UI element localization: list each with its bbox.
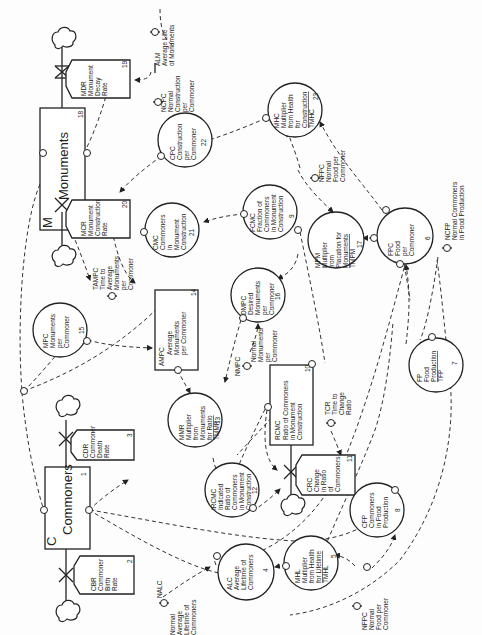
- const-nfpc-top: NFPC Normal Food per Commoner: [310, 149, 346, 182]
- svg-text:1: 1: [80, 472, 87, 476]
- svg-text:2: 2: [126, 559, 133, 563]
- const-tcr: TCR Time to Change Ratio: [324, 390, 352, 426]
- aux-cmc: CMC Commoners in Monument Construction 2…: [141, 203, 200, 257]
- cloud-source-icon: [56, 600, 80, 621]
- svg-text:11: 11: [346, 455, 353, 462]
- svg-text:NCPC Normal Constr: NCPC Normal Construction per Commoner: [160, 74, 195, 112]
- aux-mhc: MHC Multiplier from Health for Construct…: [263, 83, 323, 137]
- svg-text:Normal Average Lif: Normal Average Lifetime of Commoners: [169, 599, 197, 635]
- cloud-source-icon: [281, 494, 305, 515]
- svg-text:23: 23: [312, 92, 319, 100]
- svg-text:TCR Time to Change: TCR Time to Change Ratio: [324, 390, 352, 415]
- aux-mhl: MHL Multiplier from Health for Lifetime …: [283, 536, 339, 590]
- rate-cbr: CBR Commoner Birth Rate 2: [56, 549, 134, 622]
- svg-text:NCFP Normal Commoners: NCFP Normal Commoners in Food Production: [444, 180, 465, 240]
- aux-cfp: CFP Commoners in Food Production 8: [350, 483, 404, 571]
- svg-text:AMPC: AMPC: [158, 347, 165, 366]
- svg-text:Commoners: Commoners: [60, 464, 75, 535]
- svg-text:16: 16: [274, 292, 281, 300]
- svg-text:18: 18: [77, 110, 84, 118]
- svg-text:9: 9: [288, 214, 295, 218]
- level-commoners: Commoners C 1: [41, 464, 93, 549]
- svg-text:20: 20: [121, 200, 128, 208]
- box-rcmc: RCMC Ratio of Commoners in Monument Cons…: [265, 361, 316, 446]
- aux-mmr: MMR Multiplier from Monuments for Ratio …: [168, 393, 222, 447]
- svg-text:15: 15: [78, 326, 85, 334]
- const-ncpc: NCPC Normal Construction per Commoner: [153, 74, 195, 112]
- cloud-sink-icon: [56, 395, 80, 416]
- const-nfpc-bottom: NFPC Normal Food per Commoner: [352, 597, 389, 630]
- svg-text:21: 21: [188, 228, 195, 236]
- aux-ircmc: IRCMC Indicated Ratio of Commoners in Mo…: [205, 463, 259, 517]
- svg-text:14: 14: [190, 288, 197, 296]
- svg-text:3: 3: [126, 433, 133, 437]
- svg-text:NFPC Normal Food p: NFPC Normal Food per Commoner: [361, 597, 389, 630]
- svg-text:6: 6: [424, 236, 431, 240]
- system-dynamics-diagram: Monuments M 18 MDR Monument Decay Rate 1…: [0, 0, 482, 635]
- svg-text:12: 12: [251, 486, 258, 494]
- svg-text:M: M: [40, 217, 55, 228]
- svg-text:Normal Monuments p: Normal Monuments per Commoner: [250, 326, 278, 362]
- svg-text:NFPC Normal Food p: NFPC Normal Food per Commoner: [318, 149, 346, 182]
- svg-text:TAMPC Time to Aver: TAMPC Time to Average Monuments per Comm…: [92, 254, 134, 290]
- aux-mpm: MPM Multiplier from Placation for Monume…: [308, 212, 364, 268]
- const-nalc: NALC Normal Average Lifetime of Commoner…: [156, 580, 197, 635]
- aux-fp: FP Food Production TFP 7: [409, 334, 463, 393]
- svg-text:NALC: NALC: [156, 580, 163, 598]
- svg-text:7: 7: [451, 361, 458, 365]
- svg-text:8: 8: [394, 508, 401, 512]
- svg-text:19: 19: [121, 60, 128, 68]
- svg-text:17: 17: [356, 240, 363, 248]
- box-ampc: AMPC Average Monuments per Commoner 14: [155, 288, 198, 373]
- aux-mpc: MPC Monuments per Commoner 15: [21, 303, 91, 395]
- diagram-canvas: Monuments M 18 MDR Monument Decay Rate 1…: [0, 0, 482, 635]
- svg-text:22: 22: [200, 138, 207, 146]
- cloud-source-icon: [52, 245, 76, 266]
- aux-cpc: CPC Construction per Commoner 22: [158, 113, 213, 167]
- const-alm: ALM Average Life of Monuments: [150, 24, 175, 73]
- svg-text:NMPC: NMPC: [234, 357, 241, 376]
- rate-mdr: MDR Monument Decay Rate 19: [52, 27, 130, 108]
- aux-fpc: FPC Food per Commoner 6: [371, 207, 434, 268]
- const-tampc: TAMPC Time to Average Monuments per Comm…: [92, 254, 134, 299]
- const-ncfp: NCFP Normal Commoners in Food Production: [442, 180, 465, 251]
- rate-crc: CRC Change in Ratio of Commoners 11: [281, 435, 355, 516]
- aux-dmpc: DMPC Desired Monuments per Commoner 16: [231, 268, 285, 322]
- cloud-sink-icon: [52, 27, 76, 48]
- svg-text:13: 13: [214, 416, 221, 424]
- svg-text:Monuments: Monuments: [56, 132, 71, 200]
- svg-text:4: 4: [262, 568, 269, 572]
- svg-text:5: 5: [330, 554, 337, 558]
- aux-alc: ALC Average Lifetime of Commoners 4: [214, 544, 275, 600]
- aux-fcmc: FCMC Fraction of Commoners in Monument C…: [241, 185, 302, 239]
- svg-text:C: C: [44, 537, 59, 546]
- rate-cdr: CDR Commoner Death Rate 3: [56, 395, 134, 467]
